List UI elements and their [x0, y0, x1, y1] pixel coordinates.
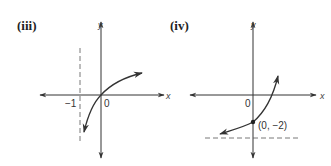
- graphs-figure: (iii) y x −1 0 (iv) y x 0 (0, −2): [0, 0, 331, 166]
- origin-label: 0: [104, 98, 110, 109]
- origin-label: 0: [245, 98, 251, 109]
- point-marker: [251, 120, 255, 124]
- y-axis-label: y: [97, 20, 103, 30]
- asymptote-tick-label: −1: [65, 98, 77, 109]
- point-label: (0, −2): [258, 120, 287, 131]
- panel-iii: (iii) y x −1 0: [17, 18, 171, 158]
- y-axis-label: y: [250, 20, 256, 30]
- panel-label-iii: (iii): [17, 18, 37, 33]
- curve-iii: [84, 73, 142, 132]
- x-axis-label: x: [319, 91, 325, 101]
- x-axis-label: x: [165, 91, 171, 101]
- panel-label-iv: (iv): [170, 18, 189, 33]
- panel-iv: (iv) y x 0 (0, −2): [170, 18, 325, 158]
